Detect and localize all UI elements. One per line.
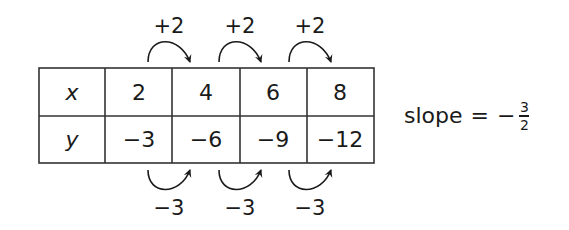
increment-arrow-icon (148, 42, 190, 62)
x-value: 6 (266, 80, 280, 105)
slope-fraction: 3 2 (519, 100, 529, 132)
negative-sign: − (497, 103, 515, 128)
x-change-label: +2 (295, 14, 326, 38)
x-value: 8 (333, 80, 347, 105)
decrement-arrow-icon (219, 170, 261, 190)
y-change-label: −3 (225, 196, 256, 220)
fraction-numerator: 3 (520, 100, 529, 114)
x-value: 4 (199, 80, 213, 105)
x-change-label: +2 (225, 14, 256, 38)
row-label-y: y (64, 127, 79, 152)
fraction-denominator: 2 (520, 118, 529, 132)
y-value: −6 (190, 127, 222, 152)
y-change-label: −3 (295, 196, 326, 220)
decrement-arrow-icon (289, 170, 331, 190)
slope-expression: slope = − 3 2 (404, 100, 529, 132)
equals-sign: = (471, 103, 489, 128)
y-value: −3 (123, 127, 155, 152)
increment-arrow-icon (219, 42, 261, 62)
x-change-label: +2 (154, 14, 185, 38)
y-value: −9 (257, 127, 289, 152)
slope-label: slope (404, 103, 463, 128)
row-label-x: x (64, 80, 79, 105)
increment-arrow-icon (289, 42, 331, 62)
y-change-label: −3 (154, 196, 185, 220)
decrement-arrow-icon (148, 170, 190, 190)
y-value: −12 (317, 127, 363, 152)
x-value: 2 (132, 80, 146, 105)
